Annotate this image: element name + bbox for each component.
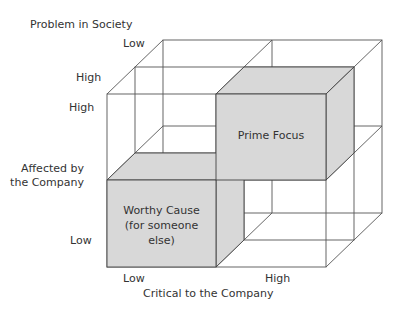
prime-focus-box [216, 67, 354, 180]
horizontal-tick-low: Low [123, 272, 145, 286]
vertical-tick-low: Low [70, 234, 92, 248]
horizontal-tick-high: High [265, 272, 290, 286]
worthy-cause-line2: (for someone [107, 218, 216, 233]
vertical-tick-high: High [69, 101, 94, 115]
depth-axis-title: Problem in Society [30, 18, 132, 32]
cube-matrix-diagram: Prime Focus Worthy Cause (for someone el… [0, 0, 401, 314]
worthy-cause-line3: else) [107, 233, 216, 248]
worthy-cause-line1: Worthy Cause [107, 203, 216, 218]
worthy-cause-label: Worthy Cause (for someone else) [107, 203, 216, 248]
vertical-axis-title: Affected by the Company [0, 162, 84, 190]
vertical-axis-title-line1: Affected by [0, 162, 84, 176]
cube-wireframe [0, 0, 401, 314]
depth-tick-high: High [76, 71, 101, 85]
depth-tick-low: Low [123, 37, 145, 51]
horizontal-axis-title: Critical to the Company [143, 287, 273, 301]
vertical-axis-title-line2: the Company [0, 176, 84, 190]
prime-focus-label: Prime Focus [216, 128, 326, 143]
prime-focus-text: Prime Focus [238, 129, 304, 142]
